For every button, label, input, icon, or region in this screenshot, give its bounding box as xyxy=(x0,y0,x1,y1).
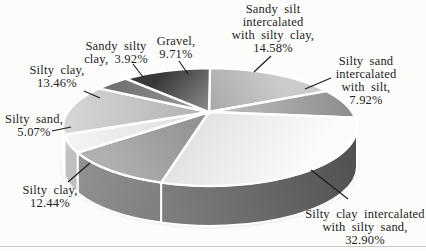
leader-line-sandy-silt-intercalated-with-silty-clay xyxy=(254,56,271,72)
page-rule-line xyxy=(0,246,426,247)
pie-chart xyxy=(0,0,426,251)
figure-canvas: Sandy siltintercalatedwith silty clay,14… xyxy=(0,0,426,251)
